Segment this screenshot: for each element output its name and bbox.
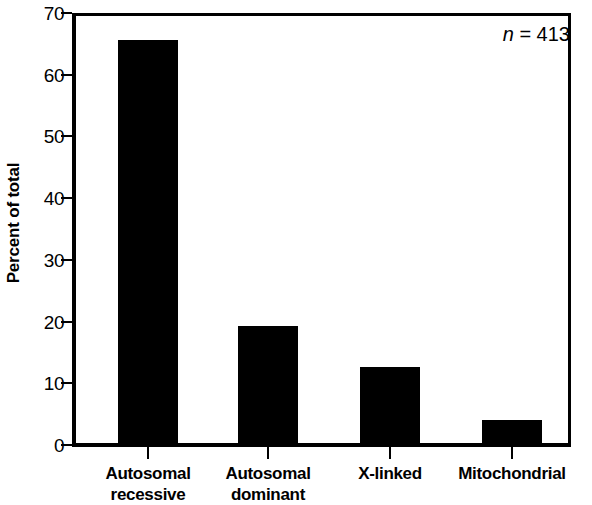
- plot-area: [76, 16, 568, 445]
- sample-size-annotation: n = 413: [503, 23, 570, 46]
- y-axis-tick-label: 70: [28, 4, 64, 23]
- y-axis-tick-label: 50: [28, 127, 64, 146]
- y-axis-tick-label: 10: [28, 374, 64, 393]
- y-axis-tick-label: 30: [28, 250, 64, 269]
- y-axis-tick-mark: [61, 259, 72, 261]
- sample-size-value: = 413: [514, 23, 570, 45]
- bar: [360, 367, 420, 445]
- x-axis-tick-mark: [511, 447, 513, 459]
- bar: [118, 40, 178, 445]
- y-axis-tick-label: 60: [28, 65, 64, 84]
- y-axis-tick-mark: [61, 321, 72, 323]
- y-axis-tick-mark: [61, 135, 72, 137]
- bar-chart-figure: Percent of total 010203040506070 n = 413…: [0, 0, 592, 505]
- y-axis-title-text: Percent of total: [4, 162, 24, 283]
- x-axis-tick-label: Autosomal recessive: [105, 464, 190, 505]
- y-axis-tick-labels: 010203040506070: [28, 0, 64, 460]
- y-axis-tick-mark: [61, 197, 72, 199]
- x-axis-tick-labels: Autosomal recessiveAutosomal dominantX-l…: [0, 464, 592, 505]
- bar: [482, 420, 542, 445]
- x-axis-tick-label: Autosomal dominant: [225, 464, 310, 505]
- y-axis-tick-mark: [61, 382, 72, 384]
- y-axis-title: Percent of total: [0, 0, 28, 445]
- y-axis-tick-label: 20: [28, 312, 64, 331]
- y-axis-tick-mark: [61, 444, 72, 446]
- y-axis-tick-label: 0: [28, 436, 64, 455]
- y-axis-tick-mark: [61, 74, 72, 76]
- x-axis-tick-mark: [267, 447, 269, 459]
- x-axis-tick-mark: [389, 447, 391, 459]
- x-axis-tick-label: X-linked: [358, 464, 422, 485]
- x-axis-tick-label: Mitochondrial: [458, 464, 566, 485]
- y-axis-tick-label: 40: [28, 189, 64, 208]
- sample-size-symbol: n: [503, 23, 514, 45]
- bar: [238, 326, 298, 445]
- x-axis-tick-mark: [147, 447, 149, 459]
- y-axis-tick-mark: [61, 12, 72, 14]
